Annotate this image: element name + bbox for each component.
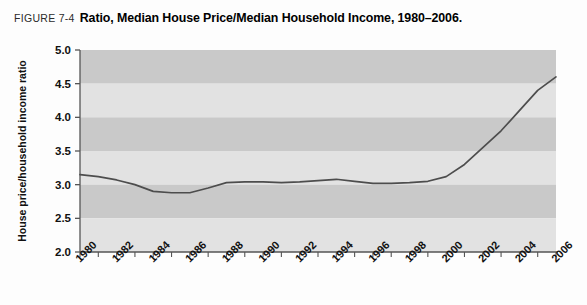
chart-band bbox=[80, 185, 556, 219]
chart-band bbox=[80, 84, 556, 118]
y-tick-label: 4.0 bbox=[55, 111, 71, 123]
y-tick-label: 3.0 bbox=[55, 179, 71, 191]
line-chart: 2.02.53.03.54.04.55.0 198019821984198619… bbox=[0, 0, 587, 305]
y-tick-label: 5.0 bbox=[55, 44, 71, 56]
chart-plot-area: 2.02.53.03.54.04.55.0 198019821984198619… bbox=[0, 0, 587, 305]
figure-container: FIGURE 7-4Ratio, Median House Price/Medi… bbox=[0, 0, 587, 305]
y-axis-title: House price/household income ratio bbox=[16, 60, 28, 241]
background-bands bbox=[80, 50, 556, 252]
y-tick-label: 3.5 bbox=[55, 145, 72, 157]
y-tick-label: 2.0 bbox=[55, 246, 71, 258]
y-tick-label: 4.5 bbox=[55, 78, 72, 90]
y-axis-ticks: 2.02.53.03.54.04.55.0 bbox=[55, 44, 80, 258]
chart-band bbox=[80, 151, 556, 185]
y-tick-label: 2.5 bbox=[55, 212, 72, 224]
y-axis-title-label: House price/household income ratio bbox=[16, 60, 28, 241]
chart-band bbox=[80, 50, 556, 84]
